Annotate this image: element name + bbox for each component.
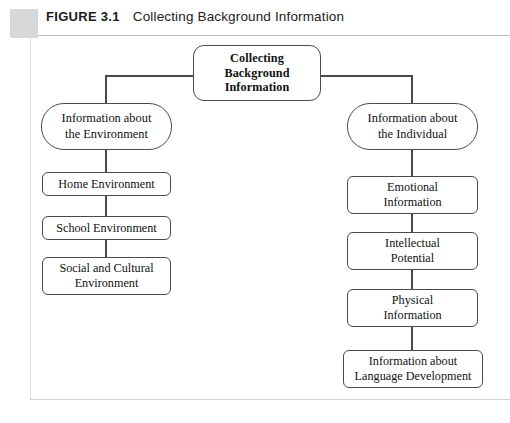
node-information-about-the-individual[interactable]: Information about the Individual [347,103,478,150]
node-emotional-line-2: Information [383,195,441,209]
flowchart-diagram: Collecting Background Information Inform… [0,0,510,423]
connector-root-to-environment [106,76,193,103]
node-root-label: Collecting Background Information [220,51,293,96]
node-environment-line-2: the Environment [65,127,148,141]
node-root-line-1: Collecting [230,51,284,65]
node-language-line-1: Information about [369,354,457,368]
node-social-and-cultural-environment[interactable]: Social and Cultural Environment [42,257,171,295]
node-environment-label: Information about the Environment [58,111,156,141]
node-social-label: Social and Cultural Environment [55,261,157,291]
node-individual-label: Information about the Individual [364,111,462,141]
node-individual-line-1: Information about [368,111,458,125]
node-root-line-2: Background [224,66,289,80]
node-emotional-information[interactable]: Emotional Information [347,176,478,214]
node-individual-line-2: the Individual [378,127,447,141]
connector-root-to-individual [321,76,412,103]
node-home-environment-label: Home Environment [54,177,158,192]
node-intellectual-line-1: Intellectual [385,236,440,250]
node-intellectual-line-2: Potential [391,251,434,265]
figure-container: FIGURE 3.1 Collecting Background Informa… [0,0,510,423]
node-physical-label: Physical Information [379,293,445,323]
node-root-line-3: Information [225,80,290,94]
node-physical-line-2: Information [383,308,441,322]
node-social-line-1: Social and Cultural [59,261,153,275]
node-language-label: Information about Language Development [351,354,476,384]
node-intellectual-potential[interactable]: Intellectual Potential [347,232,478,270]
node-language-line-2: Language Development [355,369,472,383]
node-emotional-label: Emotional Information [379,180,445,210]
node-school-environment[interactable]: School Environment [42,216,171,240]
node-environment-line-1: Information about [62,111,152,125]
node-physical-line-1: Physical [392,293,433,307]
node-information-about-the-environment[interactable]: Information about the Environment [41,103,172,150]
node-school-environment-label: School Environment [52,221,161,236]
node-emotional-line-1: Emotional [387,180,438,194]
node-intellectual-label: Intellectual Potential [381,236,444,266]
node-home-environment[interactable]: Home Environment [42,172,171,196]
node-social-line-2: Environment [75,276,139,290]
node-information-about-language-development[interactable]: Information about Language Development [343,350,483,388]
node-physical-information[interactable]: Physical Information [347,289,478,327]
node-collecting-background-information[interactable]: Collecting Background Information [193,45,321,101]
